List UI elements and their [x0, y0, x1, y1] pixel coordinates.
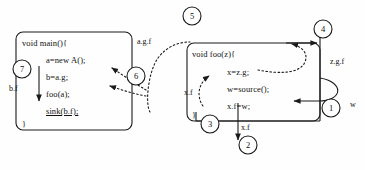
diagram-vector-layer [0, 0, 365, 170]
foo-code-line-0: void foo(z){ [192, 49, 235, 59]
xf-to-xzg-dotted-arrow [199, 76, 209, 106]
main-to-foo-dotted-curve [148, 42, 190, 112]
step-marker-label-3: 3 [201, 115, 219, 133]
main-code-line-3: foo(a); [46, 89, 70, 99]
zgf-dotted-return-curve [258, 44, 306, 72]
main-code-line-5: } [22, 119, 26, 129]
edge-label-xf-exit: x.f [241, 123, 250, 132]
foo-code-line-3: x.f=w; [227, 101, 250, 111]
foo-code-line-2: w=source(); [227, 84, 269, 94]
edge-label-bf: b.f [9, 84, 18, 93]
main-code-line-2: b=a.g; [46, 72, 68, 82]
step-marker-label-6: 6 [127, 67, 145, 85]
diagram-canvas: void main(){ a=new A(); b=a.g; foo(a); s… [0, 0, 365, 170]
foo-code-line-1: x=z.g; [227, 67, 249, 77]
main-code-line-0: void main(){ [22, 38, 67, 48]
step-marker-label-1: 1 [322, 99, 340, 117]
step-marker-label-5: 5 [183, 7, 201, 25]
edge-label-agf: a.g.f [137, 37, 151, 46]
edge-label-w: w [350, 100, 356, 109]
step-marker-label-2: 2 [239, 136, 257, 154]
w-loop-arrow [294, 78, 338, 101]
foo-code-line-4: } [192, 110, 196, 120]
main-code-line-4: sink(b.f); [46, 106, 78, 116]
edge-label-xf-in-foo: x.f [184, 88, 193, 97]
step-marker-label-4: 4 [314, 20, 332, 38]
edge-label-zgf: z.g.f [330, 57, 344, 66]
foo-to-main-dotted-arrow-lower [110, 86, 146, 96]
step-marker-label-7: 7 [13, 60, 31, 78]
main-code-line-1: a=new A(); [46, 55, 86, 65]
